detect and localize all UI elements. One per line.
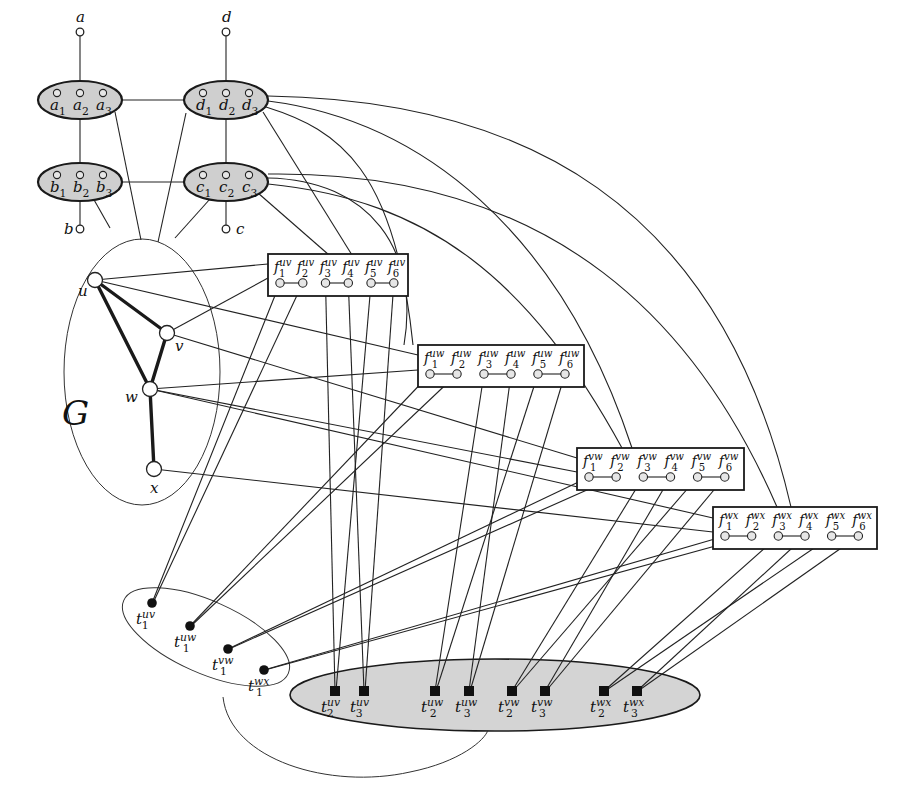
terminal-vertex [76,225,84,233]
f-pin [426,370,434,378]
vertex-label: c [236,220,245,238]
t1-terminal-dot [147,598,157,608]
f-pin [693,473,701,481]
f-pin [721,473,729,481]
f3-to-t2 [326,283,335,691]
vertex-label: v [175,337,184,355]
t-terminal-square [464,686,474,696]
f3-to-t2 [435,374,484,691]
graph-vertex-v [160,326,175,341]
t1-label: twx1 [248,675,269,700]
f-box-uw: fuw1fuw2fuw3fuw4fuw5fuw6 [418,345,584,387]
vertex-label: a [76,8,85,26]
vertex-label: u [78,282,88,300]
f2-to-t1 [265,536,752,670]
gadget-c: c1c2c3c [184,163,268,238]
t1-label: tvw1 [212,654,234,679]
graph-label: G [62,393,89,433]
t1-terminal-dot [185,621,195,631]
terminal-vertex [222,28,230,36]
u-to-fuv [95,264,268,280]
graph-edge [95,280,150,389]
v-to-fuv [167,278,268,333]
f2-to-t1 [191,374,457,626]
vertex-label: b [64,220,74,238]
f4-to-t3 [637,536,805,691]
gadgets: a1a2a3ad1d2d3db1b2b3bc1c2c3c [38,8,268,238]
f-pin [453,370,461,378]
graph-edge [150,333,167,389]
f5-to-t2 [436,374,538,691]
f-pin [721,532,729,540]
f1-to-t1 [228,477,589,649]
f-pin [774,532,782,540]
f-pin [639,473,647,481]
graph-vertex-x [147,462,162,477]
f6-to-t3 [638,536,858,691]
f5-to-t2 [605,536,832,691]
vertex-label: d [222,8,232,26]
d-to-fuw [266,107,413,345]
f-pin [507,370,515,378]
graph-g: uvwx [78,273,184,498]
f-pin [747,532,755,540]
t-terminal-square [599,686,609,696]
f-pin [561,370,569,378]
graph-edge [150,389,154,469]
c-to-fuv [258,193,329,255]
f6-to-t3 [470,374,565,691]
t-terminal-square [540,686,550,696]
terminal-vertex [222,225,230,233]
f5-to-t2 [513,477,698,691]
f-pin [480,370,488,378]
gadget-to-g [93,198,110,228]
f-pin [827,532,835,540]
f3-to-t2 [604,536,778,691]
graph-vertex-u [88,273,103,288]
t-terminal-square [330,686,340,696]
graph-vertex-w [143,382,158,397]
t1-terminal-region [109,568,303,707]
vertex-label: w [125,388,138,406]
w-to-fuw [150,370,418,389]
t-terminal-square [359,686,369,696]
f6-to-t3 [546,477,725,691]
f-box-wx: fwx1fwx2fwx3fwx4fwx5fwx6 [713,507,877,549]
f-pin [612,473,620,481]
gadget-to-g [175,199,210,238]
f-pin [390,279,398,287]
f-pin [367,279,375,287]
f-pin [666,473,674,481]
d-to-fwx [268,96,791,507]
d-to-fuv [263,112,352,255]
f-box-vw: fvw1fvw2fvw3fvw4fvw5fvw6 [577,448,744,490]
f-pin [854,532,862,540]
f-pin [321,279,329,287]
terminal-vertex [76,28,84,36]
f-pin [344,279,352,287]
vertex-label: x [150,479,159,497]
f-box-uv: fuv1fuv2fuv3fuv4fuv5fuv6 [268,254,408,296]
t1-terminal-dot [259,665,269,675]
f1-to-t1 [190,374,430,626]
t1-terminal-dot [223,644,233,654]
t-terminal-square [507,686,517,696]
f-pin [299,279,307,287]
f-boxes: fuv1fuv2fuv3fuv4fuv5fuv6fuw1fuw2fuw3fuw4… [268,254,877,549]
f5-to-t2 [336,283,371,691]
c-to-fvw [268,184,622,448]
f4-to-t3 [348,283,364,691]
f-pin [276,279,284,287]
f-pin [585,473,593,481]
gadget-to-g [158,113,186,242]
t-terminal-square [632,686,642,696]
t-terminal-square [430,686,440,696]
f-pin [801,532,809,540]
f-pin [534,370,542,378]
f2-to-t1 [229,477,616,649]
f2-to-t1 [153,283,303,603]
reduction-diagram: a1a2a3ad1d2d3db1b2b3bc1c2c3c uvwx fuv1fu… [0,0,916,812]
t1-label: tuv1 [136,608,155,633]
t1-label: tuw1 [174,631,197,656]
w-to-fvw [150,389,577,472]
